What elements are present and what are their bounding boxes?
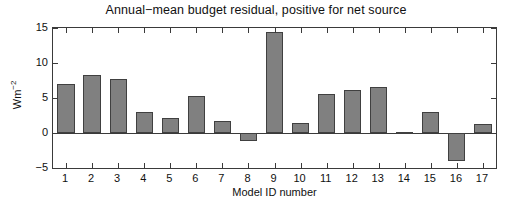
bar-model-8 xyxy=(240,133,257,141)
y-tick-label: 5 xyxy=(4,91,48,103)
bar-model-14 xyxy=(396,132,413,134)
bar-model-16 xyxy=(448,133,465,161)
y-tick-mark xyxy=(491,63,496,64)
bar-model-17 xyxy=(474,124,491,133)
y-axis-label-exponent: −2 xyxy=(9,81,18,90)
y-tick-mark xyxy=(53,133,58,134)
x-tick-mark xyxy=(118,28,119,33)
y-tick-label: 15 xyxy=(4,21,48,33)
y-tick-mark xyxy=(53,28,58,29)
x-tick-mark xyxy=(275,28,276,33)
x-tick-mark xyxy=(353,163,354,168)
x-tick-mark xyxy=(353,28,354,33)
x-tick-mark xyxy=(222,28,223,33)
bar-model-7 xyxy=(214,121,231,133)
bar-model-4 xyxy=(136,112,153,133)
bar-model-2 xyxy=(83,75,100,133)
x-tick-mark xyxy=(248,163,249,168)
x-tick-mark xyxy=(405,163,406,168)
bar-model-6 xyxy=(188,96,205,133)
y-tick-mark xyxy=(491,98,496,99)
x-tick-mark xyxy=(144,28,145,33)
x-axis-label: Model ID number xyxy=(52,186,497,198)
y-tick-mark xyxy=(491,133,496,134)
x-tick-mark xyxy=(457,163,458,168)
chart-title: Annual−mean budget residual, positive fo… xyxy=(0,3,512,17)
bar-model-1 xyxy=(57,84,74,133)
x-tick-mark xyxy=(92,28,93,33)
y-tick-label: 10 xyxy=(4,56,48,68)
x-tick-mark xyxy=(275,163,276,168)
bar-model-9 xyxy=(266,32,283,133)
x-tick-mark xyxy=(483,163,484,168)
x-tick-mark xyxy=(405,28,406,33)
bar-model-11 xyxy=(318,94,335,133)
x-tick-mark xyxy=(379,28,380,33)
x-tick-mark xyxy=(327,28,328,33)
x-tick-mark xyxy=(66,163,67,168)
x-tick-mark xyxy=(66,28,67,33)
bar-model-5 xyxy=(162,118,179,133)
bar-model-15 xyxy=(422,112,439,133)
y-tick-mark xyxy=(53,63,58,64)
plot-area xyxy=(53,28,496,168)
x-tick-mark xyxy=(144,163,145,168)
x-tick-mark xyxy=(301,163,302,168)
y-tick-mark xyxy=(491,168,496,169)
bar-model-13 xyxy=(370,87,387,133)
x-tick-mark xyxy=(196,28,197,33)
x-tick-mark xyxy=(118,163,119,168)
y-tick-label: 0 xyxy=(4,126,48,138)
x-tick-mark xyxy=(457,28,458,33)
x-tick-mark xyxy=(483,28,484,33)
x-tick-mark xyxy=(301,28,302,33)
chart-figure: Annual−mean budget residual, positive fo… xyxy=(0,0,512,205)
x-tick-mark xyxy=(379,163,380,168)
x-tick-mark xyxy=(327,163,328,168)
x-tick-mark xyxy=(170,163,171,168)
y-tick-label: −5 xyxy=(4,161,48,173)
x-tick-mark xyxy=(431,28,432,33)
x-tick-label-17: 17 xyxy=(467,172,497,184)
y-tick-mark xyxy=(53,98,58,99)
x-tick-mark xyxy=(196,163,197,168)
x-tick-mark xyxy=(92,163,93,168)
x-tick-mark xyxy=(170,28,171,33)
y-tick-mark xyxy=(53,168,58,169)
bar-model-12 xyxy=(344,90,361,133)
plot-frame xyxy=(52,27,497,169)
bar-model-10 xyxy=(292,123,309,134)
y-tick-mark xyxy=(491,28,496,29)
zero-baseline xyxy=(53,133,496,134)
x-tick-mark xyxy=(248,28,249,33)
bar-model-3 xyxy=(110,79,127,133)
x-tick-mark xyxy=(431,163,432,168)
x-tick-mark xyxy=(222,163,223,168)
